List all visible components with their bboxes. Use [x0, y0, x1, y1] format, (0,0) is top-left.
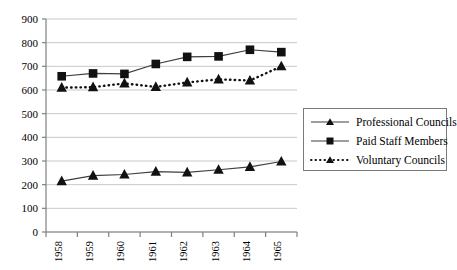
data-point-marker [88, 170, 98, 180]
y-tick-label: 100 [22, 202, 39, 214]
y-tick-label: 900 [22, 13, 39, 25]
data-point-marker [182, 77, 192, 87]
y-tick-label: 300 [22, 155, 39, 167]
legend-label-paid-staff-members: Paid Staff Members [356, 135, 448, 147]
x-tick-label: 1965 [272, 241, 283, 262]
data-point-marker [213, 74, 223, 84]
x-axis-tick-marks [46, 232, 297, 237]
data-point-marker [56, 82, 66, 92]
x-tick-label: 1961 [147, 241, 158, 262]
x-tick-label: 1963 [210, 241, 221, 262]
legend-label-voluntary-councils: Voluntary Councils [356, 154, 445, 166]
data-point-marker [57, 72, 66, 81]
chart-legend: Professional Councils Paid Staff Members… [303, 108, 447, 171]
data-point-marker [214, 52, 223, 61]
y-tick-label: 200 [22, 179, 39, 191]
y-axis-tick-labels: 0100200300400500600700800900 [22, 13, 39, 238]
x-tick-label: 1960 [115, 241, 126, 262]
x-tick-label: 1958 [53, 241, 64, 262]
data-point-marker [183, 53, 192, 62]
data-point-marker [276, 61, 286, 71]
series-professional-councils [56, 156, 286, 185]
data-point-marker [89, 69, 98, 78]
data-point-marker [277, 48, 286, 57]
x-tick-label: 1964 [241, 240, 252, 262]
x-axis-tick-labels: 19581959196019611962196319641965 [53, 240, 284, 262]
y-tick-label: 700 [22, 60, 39, 72]
data-point-marker [120, 70, 129, 79]
x-tick-label: 1962 [178, 241, 189, 262]
legend-item-professional-councils: Professional Councils [304, 112, 446, 131]
data-point-marker [151, 166, 161, 176]
data-point-marker [152, 60, 161, 69]
y-tick-label: 800 [22, 37, 39, 49]
y-tick-label: 500 [22, 108, 39, 120]
y-tick-label: 400 [22, 131, 39, 143]
legend-item-voluntary-councils: Voluntary Councils [304, 150, 446, 169]
x-tick-label: 1959 [84, 241, 95, 262]
legend-item-paid-staff-members: Paid Staff Members [304, 131, 446, 150]
data-point-marker [246, 45, 255, 54]
legend-label-professional-councils: Professional Councils [356, 116, 457, 128]
legend-key-professional-councils [309, 115, 351, 129]
y-tick-label: 600 [22, 84, 39, 96]
legend-key-paid-staff-members [309, 134, 351, 148]
series-paid-staff-members [57, 45, 285, 80]
legend-key-voluntary-councils [309, 153, 351, 167]
y-tick-label: 0 [33, 226, 39, 238]
